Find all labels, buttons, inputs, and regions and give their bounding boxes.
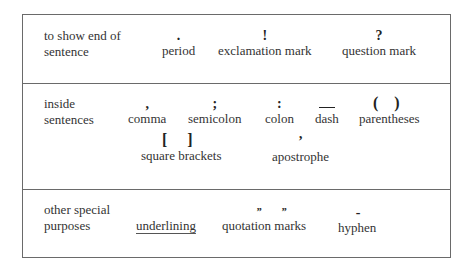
category-label: other special purposes [44, 202, 144, 234]
item-colon: : colon [265, 97, 294, 127]
semicolon-mark: ; [188, 97, 241, 111]
open-quotation-mark: ” [256, 205, 262, 217]
row-divider [23, 189, 450, 190]
item-label: underlining [136, 218, 196, 234]
item-square-brackets: [ ] square brackets [141, 132, 222, 164]
item-comma: , comma [128, 97, 166, 127]
item-label: parentheses [359, 111, 420, 127]
item-hyphen: - hyphen [338, 206, 376, 236]
colon-mark: : [265, 97, 294, 111]
item-semicolon: ; semicolon [188, 97, 241, 127]
item-label: exclamation mark [218, 43, 312, 59]
row-divider [23, 83, 450, 84]
category-line: purposes [44, 218, 144, 234]
question-mark: ? [342, 29, 416, 43]
category-line: sentence [44, 44, 144, 60]
item-label: dash [315, 111, 339, 127]
apostrophe-mark: ’ [272, 135, 329, 149]
period-mark: . [162, 29, 195, 43]
item-dash: dash [315, 97, 339, 127]
item-label: semicolon [188, 111, 241, 127]
item-apostrophe: ’ apostrophe [272, 135, 329, 165]
item-period: . period [162, 29, 195, 59]
item-label: colon [265, 111, 294, 127]
item-label: quotation marks [222, 218, 306, 234]
item-question-mark: ? question mark [342, 29, 416, 59]
item-exclamation-mark: ! exclamation mark [218, 29, 312, 59]
item-label: period [162, 43, 195, 59]
category-line: other special [44, 202, 144, 218]
item-quotation-marks: quotation marks [222, 218, 306, 234]
category-label: to show end of sentence [44, 28, 144, 60]
item-label: apostrophe [272, 149, 329, 165]
item-label: comma [128, 111, 166, 127]
square-brackets-mark: [ ] [141, 132, 222, 148]
item-label: square brackets [141, 148, 222, 164]
close-quotation-mark: ” [281, 205, 287, 217]
hyphen-mark: - [338, 206, 376, 220]
item-label: hyphen [338, 220, 376, 236]
item-label: question mark [342, 43, 416, 59]
dash-mark [315, 97, 339, 111]
exclamation-mark: ! [218, 29, 312, 43]
item-underlining: underlining [136, 218, 196, 234]
comma-mark: , [128, 97, 166, 111]
category-line: to show end of [44, 28, 144, 44]
parentheses-mark: ( ) [359, 95, 420, 111]
item-parentheses: ( ) parentheses [359, 95, 420, 127]
